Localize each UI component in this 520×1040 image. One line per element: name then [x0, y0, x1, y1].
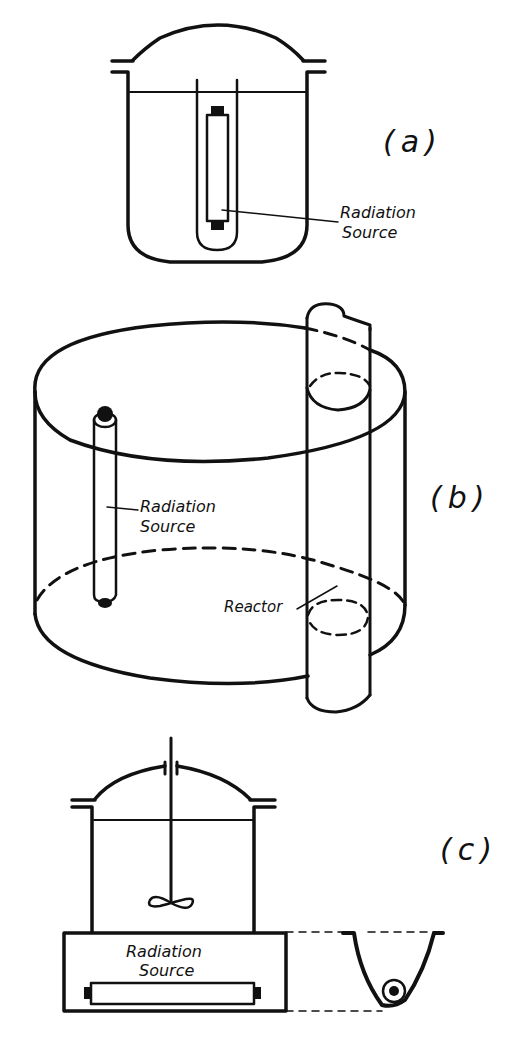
panel-c-label: (c): [440, 832, 498, 867]
panel-c-annotation-line1: Radiation: [126, 942, 202, 961]
panel-b-source-annotation-line1: Radiation: [140, 497, 216, 516]
panel-b-reactor-annotation: Reactor: [224, 598, 282, 617]
panel-b-reactor: [297, 304, 370, 712]
panel-b-source-rod: [94, 406, 138, 608]
panel-c-vessel: [72, 738, 275, 932]
panel-b-tank: [35, 322, 405, 684]
panel-c-cross-section: [286, 932, 443, 1011]
panel-a-annotation-line2: Source: [342, 223, 397, 242]
panel-a-vessel: [112, 25, 338, 262]
panel-b-label: (b): [430, 480, 490, 515]
panel-a-label: (a): [383, 124, 443, 159]
panel-a-annotation-line1: Radiation: [340, 203, 416, 222]
panel-b-source-annotation-line2: Source: [140, 517, 195, 536]
panel-c-annotation-line2: Source: [139, 961, 194, 980]
